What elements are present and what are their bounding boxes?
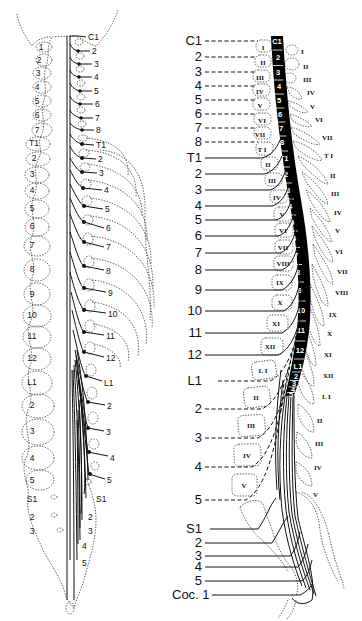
spinal-root-label: 6 bbox=[195, 106, 202, 121]
nerve-root-label: 3 bbox=[88, 526, 93, 536]
spinous-process-label: II bbox=[330, 172, 336, 180]
nerve-root-label: 6 bbox=[95, 99, 100, 109]
spinous-process-label: V bbox=[313, 491, 318, 499]
spinal-root-label: 8 bbox=[195, 134, 202, 149]
vertebra-label: 3 bbox=[30, 426, 35, 436]
vertebra-label: 2 bbox=[30, 512, 35, 522]
vertebral-body-label: VI bbox=[279, 227, 287, 235]
cord-segment-label: 7 bbox=[279, 124, 283, 133]
spinous-process-label: VI bbox=[335, 248, 343, 256]
nerve-root-label: 7 bbox=[106, 242, 111, 252]
vertebral-body-label: X bbox=[277, 299, 282, 307]
vertebral-body-label: I bbox=[262, 44, 265, 52]
vertebral-body-label: IV bbox=[243, 452, 251, 460]
vertebra-label: 6 bbox=[30, 221, 35, 231]
spinal-root-label: 3 bbox=[195, 182, 202, 197]
spinous-process-label: V bbox=[310, 103, 315, 111]
vertebra-label: 7 bbox=[30, 240, 35, 250]
nerve-root-label: 4 bbox=[110, 453, 115, 463]
nerve-root-label: 4 bbox=[104, 185, 109, 195]
spinous-process-label: II bbox=[317, 417, 323, 425]
vertebral-body-label: II bbox=[253, 394, 259, 402]
cord-segment-label: L1 bbox=[294, 362, 303, 371]
spinal-root-label: C1 bbox=[185, 33, 202, 48]
nerve-root-label: 4 bbox=[82, 541, 87, 551]
nerve-root-label: 12 bbox=[106, 353, 116, 363]
vertebra-label: 4 bbox=[30, 453, 35, 463]
right-root-labels: C12345678T123456789101112L12345S12345Coc… bbox=[172, 33, 210, 602]
vertebra-label: 11 bbox=[28, 331, 37, 341]
cord-segment-label: 6 bbox=[278, 110, 282, 119]
vertebral-body-label: III bbox=[268, 177, 276, 185]
left-root-labels: C12345678T123456789101112L12345S12345 bbox=[82, 32, 118, 568]
spinous-process-label: III bbox=[315, 440, 323, 448]
cord-segment-label: 2 bbox=[276, 53, 280, 62]
spinal-root-label: 5 bbox=[195, 492, 202, 507]
nerve-root-label: 9 bbox=[108, 288, 113, 298]
vertebral-body-label: VI bbox=[258, 117, 266, 125]
vertebra-label: 2 bbox=[32, 153, 37, 163]
spinal-root-label: 2 bbox=[195, 401, 202, 416]
vertebra-label: 6 bbox=[35, 110, 40, 120]
spinous-process-label: X bbox=[327, 330, 332, 338]
vertebra-label: 4 bbox=[35, 82, 40, 92]
spinal-root-label: 2 bbox=[195, 166, 202, 181]
spinous-process-label: L I bbox=[322, 393, 331, 401]
spinal-root-label: 2 bbox=[195, 49, 202, 64]
vertebral-body-label: V bbox=[257, 102, 262, 110]
cord-segment-label: 8 bbox=[280, 138, 284, 147]
spinal-root-label: 8 bbox=[195, 262, 202, 277]
vertebra-label: 2 bbox=[30, 400, 35, 410]
spinous-process-label: IV bbox=[314, 464, 322, 472]
spinal-root-label: 4 bbox=[195, 459, 202, 474]
vertebra-label: 5 bbox=[30, 475, 35, 485]
vertebra-label: T1 bbox=[29, 138, 39, 148]
spinal-root-label: 4 bbox=[195, 559, 202, 574]
vertebra-label: 3 bbox=[36, 68, 41, 78]
vertebral-body-label: XI bbox=[272, 320, 280, 328]
vertebra-label: 9 bbox=[30, 289, 35, 299]
spinous-process-label: VI bbox=[315, 116, 323, 124]
vertebra-label: 1 bbox=[39, 42, 44, 52]
spinal-root-label: S1 bbox=[186, 521, 202, 536]
vertebra-label: 3 bbox=[30, 526, 35, 536]
vertebra-label: 4 bbox=[30, 185, 35, 195]
spinous-process-label: XI bbox=[324, 351, 332, 359]
vertebra-label: 5 bbox=[30, 203, 35, 213]
nerve-root-label: S1 bbox=[96, 494, 107, 504]
vertebral-body-label: IX bbox=[276, 279, 284, 287]
vertebral-body-label: II bbox=[265, 161, 271, 169]
spinal-root-label: 11 bbox=[189, 325, 203, 340]
vertebra-label: 5 bbox=[35, 96, 40, 106]
vertebral-body-label: IV bbox=[256, 88, 264, 96]
spinal-root-label: Coc. 1 bbox=[172, 587, 210, 602]
spinal-root-label: 9 bbox=[195, 282, 202, 297]
vertebral-body-label: IV bbox=[273, 194, 281, 202]
vertebral-body-label: L I bbox=[259, 367, 268, 375]
vertebra-label: 8 bbox=[30, 264, 35, 274]
nerve-root-label: 3 bbox=[106, 427, 111, 437]
vertebral-body-label: VII bbox=[278, 244, 289, 252]
spinal-root-label: 5 bbox=[195, 212, 202, 227]
nerve-root-label: 6 bbox=[106, 223, 111, 233]
nerve-root-label: 2 bbox=[92, 46, 97, 56]
spinal-segments-diagram: 1234567T123456789101112L12345S123 C12345… bbox=[0, 0, 362, 621]
nerve-root-label: 5 bbox=[107, 475, 112, 485]
spinal-root-label: T1 bbox=[187, 150, 202, 165]
cord-segment-label: 5 bbox=[277, 96, 281, 105]
vertebra-label: 12 bbox=[27, 353, 37, 363]
spinous-process-label: IX bbox=[329, 311, 337, 319]
spinous-process-label: VII bbox=[322, 134, 333, 142]
nerve-root-label: 8 bbox=[106, 266, 111, 276]
vertebra-label: S1 bbox=[27, 494, 38, 504]
nerve-root-label: 5 bbox=[82, 558, 87, 568]
vertebra-label: 2 bbox=[37, 55, 42, 65]
spinous-process-label: IV bbox=[307, 89, 315, 97]
vertebral-body-label: VII bbox=[255, 131, 266, 139]
spinal-root-label: 5 bbox=[195, 573, 202, 588]
vertebral-body-label: VIII bbox=[276, 260, 290, 268]
nerve-root-label: 3 bbox=[94, 59, 99, 69]
spinous-process-label: V bbox=[335, 227, 340, 235]
vertebral-body-label: V bbox=[241, 482, 246, 490]
spinous-process-label: III bbox=[331, 190, 339, 198]
